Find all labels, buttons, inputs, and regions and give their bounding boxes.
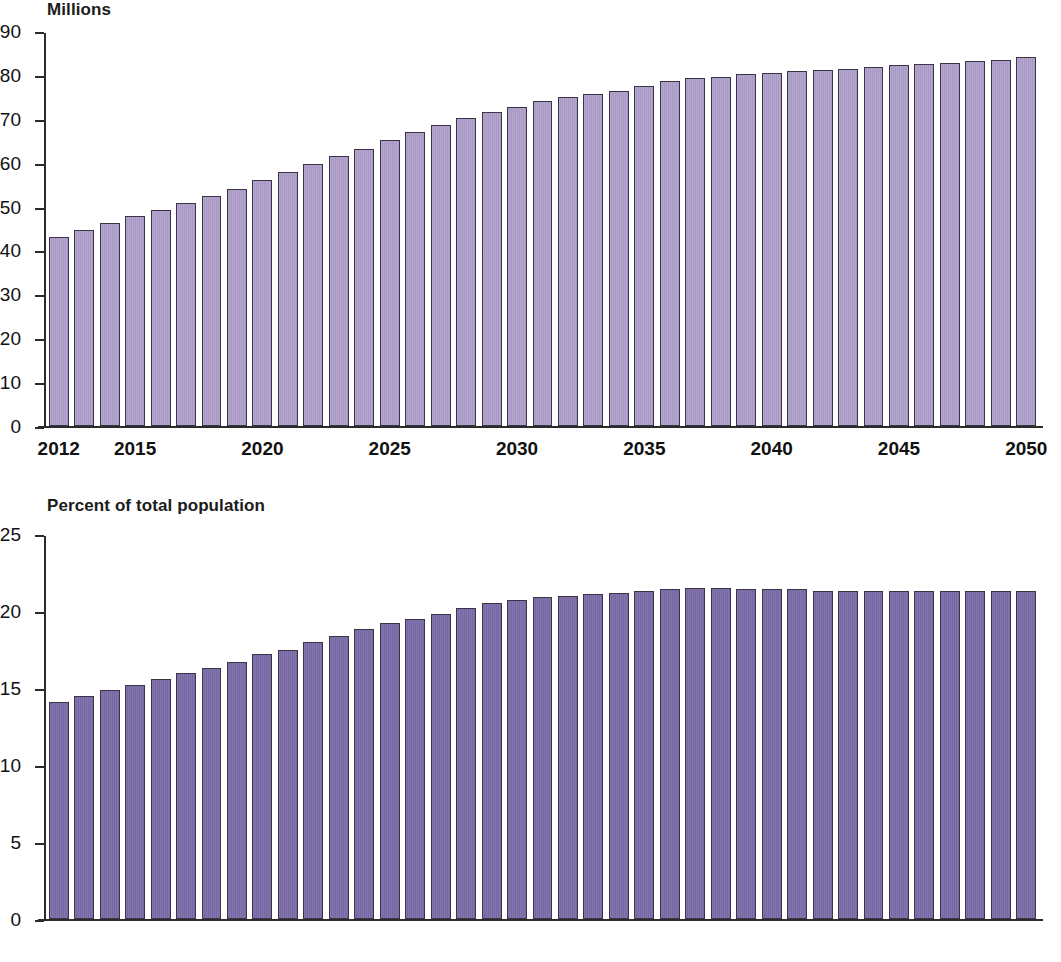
y-tick-label-10: 10	[0, 372, 21, 394]
bar-2022	[303, 642, 323, 919]
y-tick-label-5: 5	[10, 832, 21, 854]
bar-2027	[431, 614, 451, 919]
bar-2029	[482, 603, 502, 919]
y-tick-5: 5	[35, 843, 44, 845]
bar-2030	[507, 107, 527, 427]
bar-2028	[456, 118, 476, 426]
bar-2043	[838, 591, 858, 919]
y-tick-30: 30	[35, 295, 44, 297]
bar-2045	[889, 591, 909, 919]
y-tick-90: 90	[35, 32, 44, 34]
bar-2049	[991, 591, 1011, 919]
bar-2047	[940, 591, 960, 919]
x-axis-label-2030: 2030	[496, 438, 538, 460]
x-axis-label-2035: 2035	[623, 438, 665, 460]
bar-2023	[329, 636, 349, 919]
bar-2042	[813, 70, 833, 426]
bar-2043	[838, 69, 858, 426]
bar-2049	[991, 60, 1011, 426]
y-tick-80: 80	[35, 76, 44, 78]
plot-area-percent: 0510152025	[44, 536, 1039, 921]
y-tick-label-10: 10	[0, 755, 21, 777]
y-tick-40: 40	[35, 251, 44, 253]
bar-2017	[176, 203, 196, 426]
bar-2015	[125, 216, 145, 426]
bar-2021	[278, 650, 298, 920]
bar-2047	[940, 63, 960, 426]
bar-2023	[329, 156, 349, 426]
x-axis-label-2050: 2050	[1005, 438, 1047, 460]
y-tick-70: 70	[35, 120, 44, 122]
bar-2025	[380, 140, 400, 426]
bar-2012	[49, 237, 69, 426]
bar-2014	[100, 223, 120, 426]
bar-2024	[354, 629, 374, 919]
bar-2034	[609, 593, 629, 919]
y-tick-10: 10	[35, 383, 44, 385]
bar-2015	[125, 685, 145, 919]
bar-2039	[736, 589, 756, 919]
x-axis-labels-millions: 201220152020202520302035204020452050	[44, 438, 1039, 468]
bar-2019	[227, 189, 247, 426]
bar-2042	[813, 591, 833, 919]
bar-2022	[303, 164, 323, 426]
y-tick-0: 0	[35, 920, 44, 922]
y-tick-label-15: 15	[0, 678, 21, 700]
bar-2024	[354, 149, 374, 426]
y-tick-60: 60	[35, 164, 44, 166]
x-axis-label-2012: 2012	[38, 438, 80, 460]
bar-2033	[583, 594, 603, 919]
y-tick-label-50: 50	[0, 197, 21, 219]
bar-2031	[533, 597, 553, 919]
bar-2050	[1016, 57, 1036, 426]
bar-2013	[74, 230, 94, 426]
y-tick-0: 0	[35, 427, 44, 429]
y-tick-label-40: 40	[0, 240, 21, 262]
y-tick-label-80: 80	[0, 65, 21, 87]
y-tick-label-0: 0	[10, 416, 21, 438]
y-tick-label-90: 90	[0, 21, 21, 43]
bar-2038	[711, 77, 731, 426]
bar-2035	[634, 86, 654, 426]
bar-2030	[507, 600, 527, 919]
bar-2037	[685, 78, 705, 426]
bar-2019	[227, 662, 247, 919]
bar-2017	[176, 673, 196, 919]
y-tick-15: 15	[35, 689, 44, 691]
bar-series-millions	[46, 33, 1039, 426]
bar-2027	[431, 125, 451, 426]
bar-2046	[914, 64, 934, 426]
bar-2031	[533, 101, 553, 426]
x-axis-label-2045: 2045	[878, 438, 920, 460]
x-axis-label-2020: 2020	[241, 438, 283, 460]
y-tick-label-0: 0	[10, 909, 21, 931]
bar-2050	[1016, 591, 1036, 919]
bar-series-percent	[46, 536, 1039, 919]
bar-2025	[380, 623, 400, 919]
bar-2037	[685, 588, 705, 919]
x-axis-label-2040: 2040	[751, 438, 793, 460]
y-tick-label-70: 70	[0, 109, 21, 131]
y-tick-label-20: 20	[0, 328, 21, 350]
bar-2036	[660, 81, 680, 426]
bar-2036	[660, 589, 680, 919]
x-axis-line-millions	[38, 426, 1043, 428]
bar-2040	[762, 589, 782, 919]
y-tick-label-20: 20	[0, 601, 21, 623]
y-tick-label-30: 30	[0, 284, 21, 306]
chart-title-percent: Percent of total population	[47, 496, 265, 516]
bar-2028	[456, 608, 476, 919]
bar-2021	[278, 172, 298, 426]
bar-2034	[609, 91, 629, 426]
chart-title-millions: Millions	[47, 0, 111, 20]
y-tick-10: 10	[35, 766, 44, 768]
x-axis-label-2015: 2015	[114, 438, 156, 460]
bar-2041	[787, 71, 807, 426]
bar-2045	[889, 65, 909, 426]
bar-2035	[634, 591, 654, 919]
bar-2048	[965, 591, 985, 919]
bar-2026	[405, 619, 425, 919]
figure-two-bar-charts: Millions 0102030405060708090 20122015202…	[0, 0, 1061, 962]
bar-2038	[711, 588, 731, 919]
bar-2018	[202, 196, 222, 426]
